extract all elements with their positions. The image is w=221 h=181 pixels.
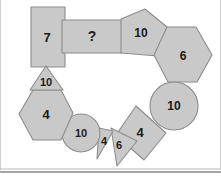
- triangle-6-label: 6: [116, 139, 122, 151]
- shape-group-circle-10-right[interactable]: 10: [150, 82, 198, 130]
- shape-group-rectangle-7[interactable]: 7: [31, 7, 65, 67]
- rectangle-question-label: ?: [88, 28, 97, 44]
- triangle-10-label: 10: [40, 76, 52, 88]
- square-4-label: 4: [136, 125, 144, 140]
- circle-10-bottom-label: 10: [75, 127, 87, 139]
- rectangle-7-label: 7: [43, 30, 50, 45]
- hexagon-4-label: 4: [42, 107, 50, 122]
- shape-group-rectangle-question[interactable]: ?: [62, 20, 122, 53]
- hexagon-6-label: 6: [180, 49, 187, 63]
- triangle-4-label: 4: [101, 135, 108, 147]
- puzzle-figure: 7 ? 10 6 10 4 6 4: [0, 0, 221, 181]
- shapes-canvas: 7 ? 10 6 10 4 6 4: [0, 0, 221, 181]
- pentagon-10-label: 10: [134, 26, 148, 40]
- circle-10-right-label: 10: [167, 99, 181, 113]
